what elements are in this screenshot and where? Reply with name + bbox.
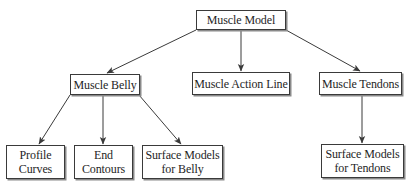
node-muscle-action-line: Muscle Action Line [192,72,290,95]
edge-model-to-belly [107,30,196,73]
node-muscle-model: Muscle Model [196,10,286,30]
node-end-contours: End Contours [74,145,133,179]
edge-model-to-tendons [286,30,360,71]
node-surface-models-tendons: Surface Models for Tendons [321,144,404,178]
muscle-model-hierarchy-diagram: Muscle Model Muscle Belly Muscle Action … [0,0,409,188]
edge-belly-to-surface-models-belly [139,95,181,144]
node-profile-curves: Profile Curves [6,145,65,179]
edge-belly-to-profile-curves [39,95,70,144]
node-muscle-tendons: Muscle Tendons [319,72,402,95]
node-muscle-belly: Muscle Belly [70,74,140,95]
node-surface-models-belly: Surface Models for Belly [142,145,223,179]
